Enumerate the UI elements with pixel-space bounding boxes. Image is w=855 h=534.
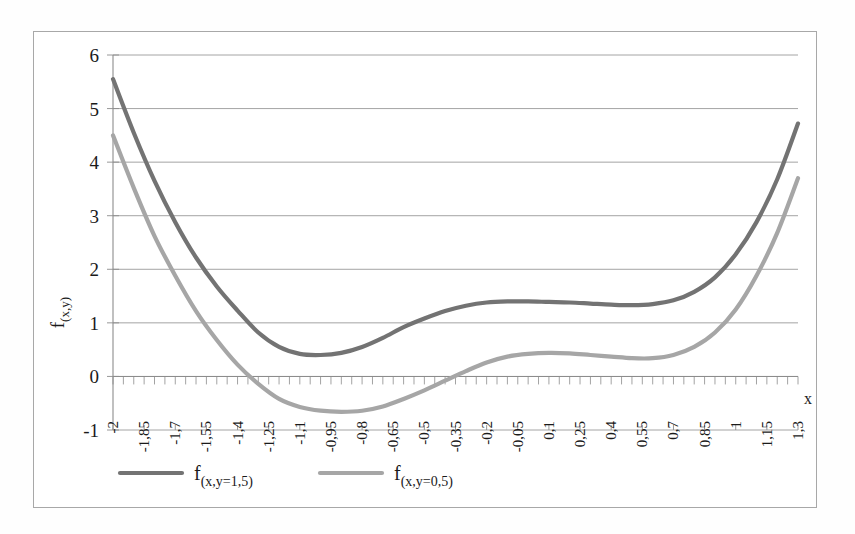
chart-frame [33,31,817,508]
figure-root: -10123456 -2-1,85-1,7-1,55-1,4-1,25-1,1-… [0,0,855,534]
